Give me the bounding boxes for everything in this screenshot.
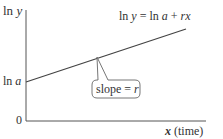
origin-label: 0	[16, 113, 22, 128]
line-equation-label: ln y = ln a + rx	[119, 9, 191, 24]
y-intercept-label: ln a	[3, 74, 21, 89]
y-axis-label: ln y	[3, 3, 22, 19]
regression-line	[26, 29, 186, 82]
x-axis-label: x (time)	[165, 124, 203, 139]
slope-callout-text: slope = r	[96, 82, 139, 97]
